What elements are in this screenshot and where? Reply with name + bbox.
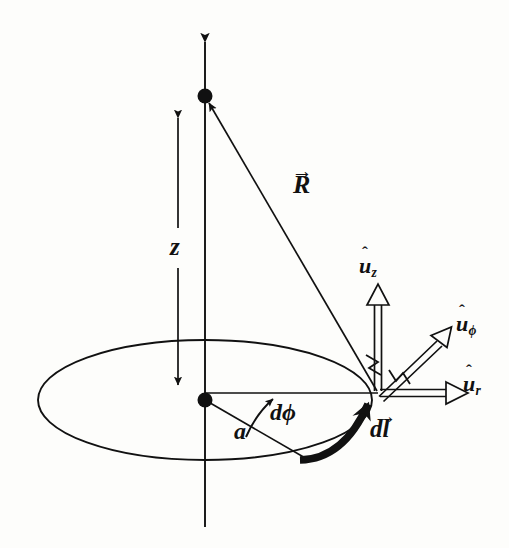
label-uphi-sub: ϕ [469,323,477,338]
vector-diagram-svg [0,0,509,548]
unit-vector-uz [367,284,389,391]
uz-shaft [375,305,382,391]
label-a: a [234,419,246,443]
right-angle-marker-uphi-ur [389,370,410,384]
label-uz-sub: z [372,265,377,280]
uphi-shaft [379,341,442,402]
right-angle-markers [366,355,410,384]
label-z-text: z [170,233,180,260]
label-R-vector: →R [293,172,310,198]
hat-mark-uphi: ˆ [459,302,465,320]
label-dl-group: →l [383,416,390,441]
label-dl-vector: d→l [370,416,389,441]
label-ur-sub: r [476,383,481,398]
label-ur-group: ˆu [463,373,475,395]
origin-point-dot [198,393,213,408]
hat-mark-uz: ˆ [362,244,368,262]
vector-arrow-mark-dl: → [376,406,396,426]
uz-head [367,284,389,305]
label-R-group: →R [293,172,310,198]
hat-mark-ur: ˆ [466,362,472,380]
label-dphi-d: d [270,399,282,425]
label-dphi-phi: ϕ [282,399,296,425]
label-z: z [170,234,180,259]
R-vector-line [209,103,377,391]
right-angle-marker-uz-uphi [366,355,381,375]
label-dphi: dϕ [270,400,296,424]
label-a-text: a [234,418,246,444]
field-point-dot [198,89,213,104]
figure-canvas: z a dϕ →R d→l ˆuz ˆuϕ ˆur [0,0,509,548]
dl-bold-arrow [300,404,368,460]
label-unit-vector-uphi: ˆuϕ [456,313,476,338]
label-unit-vector-uz: ˆuz [359,255,377,280]
vector-arrow-mark-R: → [292,161,313,182]
label-unit-vector-ur: ˆur [463,373,481,398]
label-uphi-group: ˆu [456,313,468,335]
label-uz-group: ˆu [359,255,371,277]
